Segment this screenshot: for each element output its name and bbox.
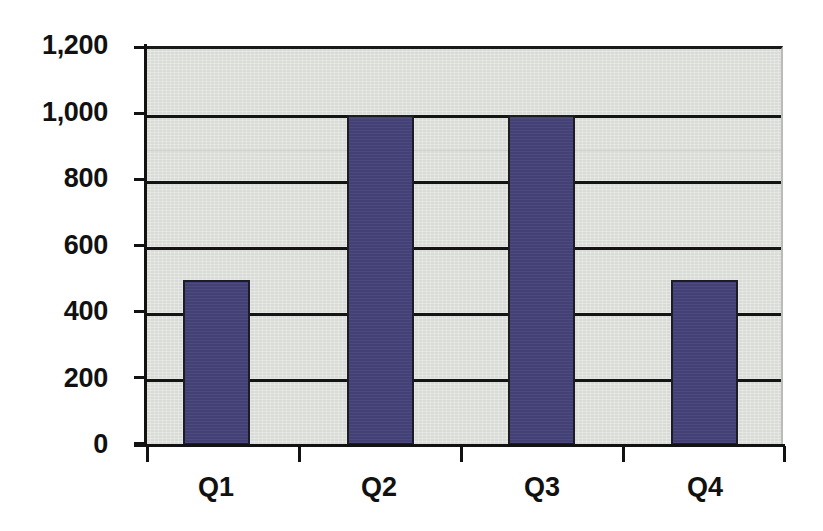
y-axis-line: [144, 44, 147, 447]
x-tick-mark-4: [783, 446, 786, 462]
y-axis-tick-labels: 1,200 1,000 800 600 400 200 0: [0, 0, 108, 531]
x-tick-mark-3: [622, 446, 625, 462]
scan-artifact-line: [146, 150, 781, 151]
y-tick-label-0: 0: [93, 431, 108, 458]
plot-area: [146, 46, 783, 445]
gridline-600: [146, 247, 781, 250]
y-tick-label-1200: 1,200: [42, 32, 108, 59]
bar-chart: 1,200 1,000 800 600 400 200 0 Q1 Q2 Q: [0, 0, 823, 531]
x-category-label-q4: Q4: [687, 472, 723, 502]
x-category-label-q2: Q2: [361, 472, 397, 502]
x-tick-mark-2: [460, 446, 463, 462]
y-tick-label-800: 800: [64, 165, 108, 192]
y-tick-label-400: 400: [64, 298, 108, 325]
x-category-label-q1: Q1: [198, 472, 234, 502]
bar-q2: [347, 115, 414, 445]
y-tick-label-1000: 1,000: [42, 99, 108, 126]
y-tick-label-600: 600: [64, 232, 108, 259]
x-tick-mark-1: [298, 446, 301, 462]
gridline-1000: [146, 115, 781, 118]
x-category-label-q3: Q3: [524, 472, 560, 502]
gridline-800: [146, 181, 781, 184]
y-tick-label-200: 200: [64, 365, 108, 392]
bar-q1: [183, 280, 250, 445]
bar-q4: [671, 280, 738, 445]
bar-q3: [508, 115, 575, 445]
x-tick-mark-0: [146, 446, 149, 462]
